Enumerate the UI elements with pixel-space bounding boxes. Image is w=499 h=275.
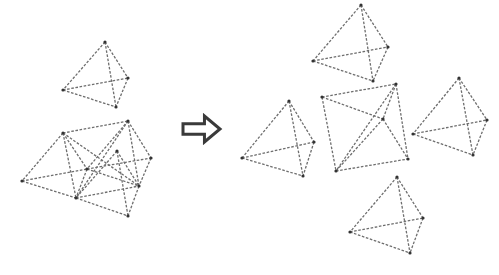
vertex	[334, 169, 337, 172]
vertex	[381, 117, 384, 120]
vertex	[471, 153, 474, 156]
tetrahedra-groups	[20, 3, 488, 254]
vertex	[320, 95, 323, 98]
vertex	[85, 167, 88, 170]
vertex	[301, 174, 304, 177]
tetrahedron-far-right	[411, 76, 488, 156]
edge	[76, 121, 128, 198]
edge	[76, 198, 128, 216]
vertex	[394, 82, 397, 85]
edge	[22, 169, 87, 181]
edge	[336, 119, 383, 171]
vertex	[411, 132, 414, 135]
edge	[139, 158, 151, 186]
vertex	[408, 251, 411, 254]
edge	[105, 42, 116, 107]
edge	[373, 47, 388, 81]
edge	[350, 177, 397, 232]
vertex	[348, 230, 351, 233]
arrow-shape	[183, 116, 220, 142]
edge	[87, 169, 139, 186]
edge	[322, 97, 336, 171]
vertex	[386, 45, 389, 48]
edge	[63, 90, 116, 107]
edge	[322, 84, 396, 97]
edge	[473, 120, 487, 155]
edge	[128, 186, 139, 216]
edge	[413, 78, 459, 134]
edge	[303, 142, 314, 176]
vertex	[421, 216, 424, 219]
vertex	[137, 184, 140, 187]
vertex	[287, 99, 290, 102]
single-tetrahedron-left	[61, 40, 129, 108]
edge	[22, 133, 63, 181]
edge	[413, 120, 487, 134]
vertex	[149, 156, 152, 159]
edge	[313, 5, 361, 61]
vertex	[359, 3, 362, 6]
edge	[313, 47, 388, 61]
edge	[336, 159, 408, 171]
vertex	[126, 214, 129, 217]
vertex	[61, 88, 64, 91]
edge	[116, 78, 128, 107]
vertex	[485, 118, 488, 121]
vertex	[312, 140, 315, 143]
vertex	[311, 59, 314, 62]
vertex	[395, 175, 398, 178]
tetrahedra-diagram	[0, 0, 499, 275]
edge	[383, 84, 396, 119]
edge	[242, 101, 289, 158]
vertex	[103, 40, 106, 43]
edge	[350, 232, 410, 253]
vertex	[20, 179, 23, 182]
edge	[117, 151, 128, 216]
edge	[413, 134, 473, 155]
edge	[63, 42, 105, 90]
vertex	[126, 119, 129, 122]
edge	[361, 5, 373, 81]
vertex	[115, 149, 118, 152]
edge	[63, 133, 76, 198]
vertex	[61, 131, 64, 134]
merged-cluster-left	[20, 119, 152, 217]
edge	[22, 181, 76, 198]
edge	[410, 218, 423, 253]
tetrahedron-left-right	[240, 99, 315, 177]
vertex	[126, 76, 129, 79]
vertex	[74, 196, 77, 199]
edge	[361, 5, 388, 47]
edge	[289, 101, 314, 142]
vertex	[240, 156, 243, 159]
edge	[242, 158, 303, 176]
tetrahedron-center-right	[320, 82, 409, 172]
tetrahedron-bottom-right	[348, 175, 424, 254]
edge	[63, 78, 128, 90]
edge	[63, 121, 128, 133]
edge	[396, 84, 408, 159]
vertex	[114, 105, 117, 108]
right-arrow-icon	[183, 116, 220, 142]
tetrahedron-top-right	[311, 3, 389, 82]
edge	[63, 133, 139, 186]
edge	[336, 84, 396, 171]
vertex	[371, 79, 374, 82]
edge	[313, 61, 373, 81]
vertex	[457, 76, 460, 79]
edge	[397, 177, 423, 218]
vertex	[406, 157, 409, 160]
